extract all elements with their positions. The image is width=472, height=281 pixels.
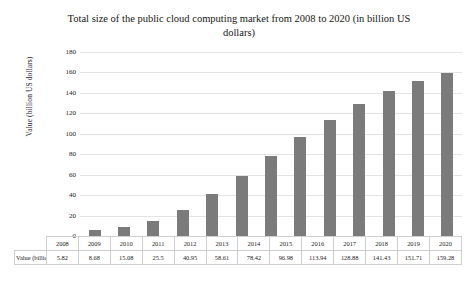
bar-2015[interactable] [294,137,306,236]
bar-slot [227,52,256,236]
bar-2011[interactable] [177,210,189,236]
bar-slot [403,52,432,236]
chart-title: Total size of the public cloud computing… [54,12,424,40]
table-cell-value: 78.42 [238,251,270,265]
table-row-values: Value (billion US dollars) 5.828.6815.08… [15,251,462,265]
bar-2020[interactable] [441,73,453,236]
table-corner-cell [15,237,47,251]
y-axis-tick-label: 20 [69,212,76,220]
data-table: 2008200920102011201220132014201520162017… [14,236,462,265]
bar-slot [256,52,285,236]
table-cell-value: 96.98 [270,251,302,265]
bar-2009[interactable] [118,227,130,236]
table-cell-year: 2020 [429,237,461,251]
bar-slot [374,52,403,236]
table-cell-year: 2016 [302,237,334,251]
bar-2018[interactable] [383,91,395,236]
y-axis-tick-label: 60 [69,171,76,179]
bar-slot [198,52,227,236]
bar-2016[interactable] [324,120,336,236]
bar-slot [139,52,168,236]
bar-slot [286,52,315,236]
y-axis-tick-label: 100 [66,130,77,138]
table-cell-value: 5.82 [46,251,78,265]
y-axis-tick-label: 80 [69,150,76,158]
table-cell-year: 2017 [334,237,366,251]
bar-slot [80,52,109,236]
bar-slot [315,52,344,236]
table-row-years: 2008200920102011201220132014201520162017… [15,237,462,251]
y-axis-tick-label: 140 [66,89,77,97]
table-cell-value: 15.08 [110,251,142,265]
table-cell-value: 40.95 [174,251,206,265]
bar-slot [109,52,138,236]
bar-2010[interactable] [147,221,159,236]
bar-2014[interactable] [265,156,277,236]
y-axis-title: Value (billion US dollars) [25,42,34,152]
table-cell-value: 58.61 [206,251,238,265]
table-cell-year: 2010 [110,237,142,251]
table-cell-year: 2019 [398,237,430,251]
table-cell-value: 128.88 [334,251,366,265]
bar-slot [344,52,373,236]
y-axis-tick-label: 180 [66,48,77,56]
bar-2019[interactable] [412,81,424,236]
bar-2012[interactable] [206,194,218,236]
y-axis-tick-label: 40 [69,191,76,199]
table-cell-value: 151.71 [398,251,430,265]
bar-series [80,52,462,236]
table-cell-value: 25.5 [142,251,174,265]
plot-area: 180160140120100806040200 [80,52,462,236]
table-cell-year: 2009 [78,237,110,251]
table-cell-value: 8.68 [78,251,110,265]
y-axis-tick-label: 160 [66,68,77,76]
table-cell-year: 2018 [366,237,398,251]
bar-slot [168,52,197,236]
table-cell-value: 113.94 [302,251,334,265]
table-cell-year: 2012 [174,237,206,251]
table-cell-year: 2011 [142,237,174,251]
table-row-header: Value (billion US dollars) [15,251,47,265]
bar-2013[interactable] [236,176,248,236]
table-cell-value: 159.28 [429,251,461,265]
table-cell-year: 2014 [238,237,270,251]
y-axis-tick-label: 120 [66,109,77,117]
table-cell-value: 141.43 [366,251,398,265]
table-cell-year: 2015 [270,237,302,251]
table-cell-year: 2008 [46,237,78,251]
bar-slot [433,52,462,236]
table-cell-year: 2013 [206,237,238,251]
bar-2017[interactable] [353,104,365,236]
